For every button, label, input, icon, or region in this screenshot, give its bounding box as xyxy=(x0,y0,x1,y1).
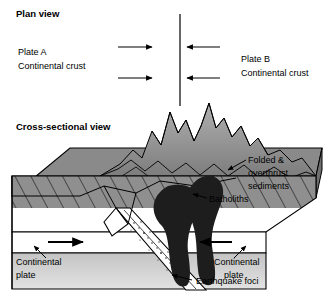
plate-b-name: Plate B xyxy=(241,54,270,64)
label-continental-plate-left-line2: plate xyxy=(16,270,36,280)
label-earthquake-foci: Earthquake foci xyxy=(196,276,259,286)
figure-root: Plan view Plate A Continental crust Plat… xyxy=(0,0,328,298)
plan-view-title: Plan view xyxy=(16,8,60,19)
label-sediments: sediments xyxy=(248,181,290,191)
plate-b-crust: Continental crust xyxy=(241,68,309,78)
plate-a-crust: Continental crust xyxy=(18,61,86,71)
label-batholiths: Batholiths xyxy=(209,194,249,204)
subduction-collision-diagram: Plan view Plate A Continental crust Plat… xyxy=(0,0,328,298)
plate-a-name: Plate A xyxy=(18,47,47,57)
label-folded: Folded & xyxy=(248,155,284,165)
label-continental-plate-right-line1: Continental xyxy=(214,257,260,267)
label-overthrust: overthrust xyxy=(248,168,289,178)
label-continental-plate-left-line1: Continental xyxy=(16,257,62,267)
cross-section-title: Cross-sectional view xyxy=(16,121,111,132)
